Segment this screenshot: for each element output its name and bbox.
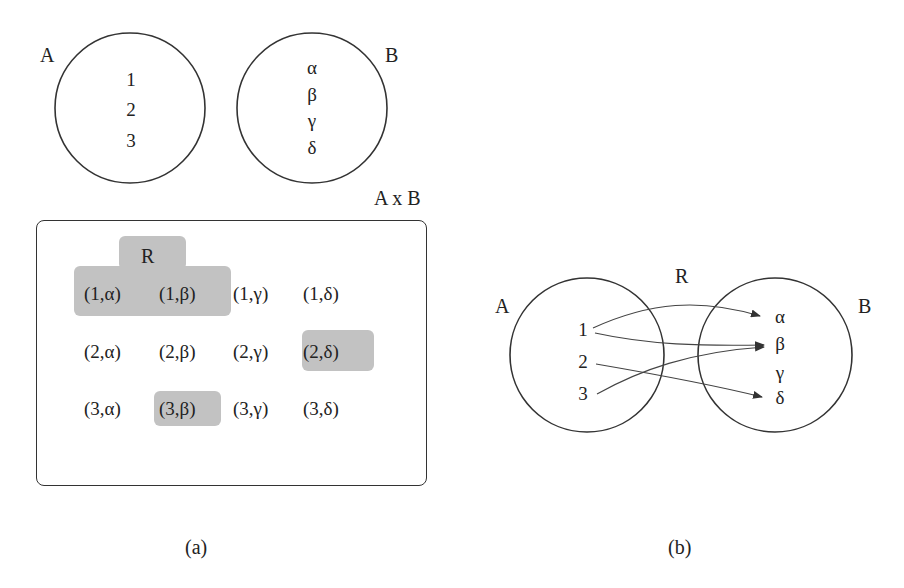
set-b-element-b: β bbox=[765, 334, 795, 354]
caption-b: (b) bbox=[668, 537, 691, 557]
set-a-label-b: A bbox=[495, 296, 509, 316]
caption-a: (a) bbox=[185, 537, 207, 557]
set-b-element: δ bbox=[297, 138, 327, 158]
relation-label-b: R bbox=[675, 266, 688, 286]
set-a-element: 2 bbox=[116, 100, 146, 120]
arrow-3-beta bbox=[597, 347, 764, 394]
set-b-element: γ bbox=[297, 111, 327, 131]
pair-cell: (1,γ) bbox=[233, 283, 268, 305]
set-a-element-b: 3 bbox=[568, 384, 598, 404]
set-b-circle bbox=[237, 33, 387, 183]
pair-cell: (2,α) bbox=[84, 341, 121, 363]
relation-label: R bbox=[141, 246, 154, 266]
set-b-element-b: γ bbox=[765, 363, 795, 383]
set-b-element-b: α bbox=[765, 307, 795, 327]
pair-cell: (1,δ) bbox=[303, 283, 339, 305]
pair-cell: (2,β) bbox=[159, 341, 196, 363]
pair-cell: (3,α) bbox=[84, 398, 121, 420]
set-b-element: β bbox=[297, 85, 327, 105]
set-a-element-b: 1 bbox=[568, 320, 598, 340]
pair-cell: (3,γ) bbox=[233, 398, 268, 420]
product-label: A x B bbox=[374, 188, 421, 208]
arrow-1-alpha bbox=[593, 305, 760, 328]
set-b-circle-b bbox=[698, 278, 852, 432]
arrow-2-delta bbox=[596, 364, 762, 397]
arrow-1-beta bbox=[595, 333, 764, 345]
set-b-label-b: B bbox=[858, 296, 871, 316]
pair-cell: (1,β) bbox=[159, 283, 196, 305]
pair-cell: (3,β) bbox=[159, 398, 196, 420]
set-b-element: α bbox=[297, 58, 327, 78]
set-a-label: A bbox=[40, 45, 54, 65]
pair-cell: (2,δ) bbox=[303, 341, 339, 363]
pair-cell: (2,γ) bbox=[233, 341, 268, 363]
set-b-element-b: δ bbox=[765, 388, 795, 408]
pair-cell: (3,δ) bbox=[303, 398, 339, 420]
set-b-label: B bbox=[385, 45, 398, 65]
set-a-element: 1 bbox=[116, 70, 146, 90]
pair-cell: (1,α) bbox=[84, 283, 121, 305]
set-a-element-b: 2 bbox=[568, 352, 598, 372]
set-a-element: 3 bbox=[116, 131, 146, 151]
